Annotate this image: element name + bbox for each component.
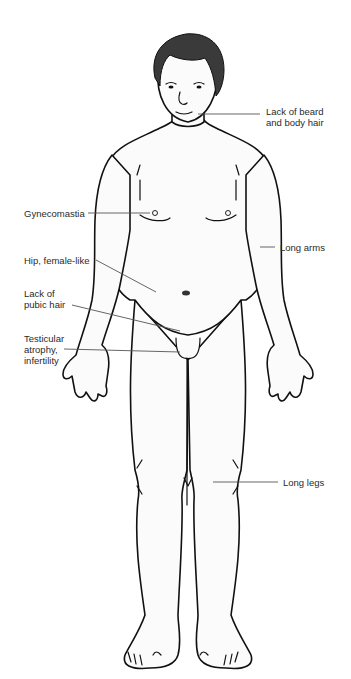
label-gynecomastia: Gynecomastia [24,208,85,219]
head [154,34,224,122]
arm-right [246,155,313,401]
label-long-legs: Long legs [283,477,324,488]
label-lack-of-beard: Lack of beard and body hair [266,106,324,128]
arm-left [63,155,130,401]
label-hip-female-like: Hip, female-like [24,255,89,266]
label-testicular-atrophy: Testicular atrophy, infertility [24,333,64,366]
diagram-canvas: Lack of beard and body hair Gynecomastia… [0,0,351,679]
label-lack-of-pubic-hair: Lack of pubic hair [24,288,65,310]
label-long-arms: Long arms [280,242,325,253]
